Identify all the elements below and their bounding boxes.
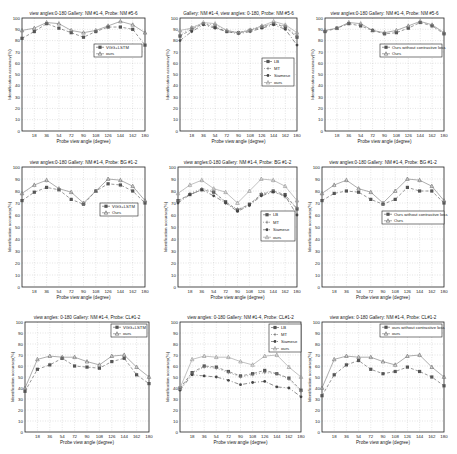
x-tick-label: 144 [117, 133, 125, 138]
square-marker-icon [20, 199, 23, 202]
x-tick-label: 36 [344, 289, 349, 294]
x-tick-label: 54 [358, 133, 363, 138]
y-tick-label: 10 [315, 273, 320, 278]
circle-marker-icon [236, 210, 239, 213]
y-tick-label: 50 [171, 225, 176, 230]
x-axis-label: Probe view angle (degree) [214, 440, 268, 445]
square-marker-icon [273, 326, 276, 329]
circle-marker-icon [296, 44, 299, 47]
y-tick-label: 70 [15, 201, 20, 206]
x-tick-label: 162 [281, 289, 289, 294]
square-marker-icon [442, 384, 445, 387]
circle-marker-icon [288, 387, 291, 390]
x-tick-label: 54 [213, 133, 218, 138]
x-tick-label: 54 [356, 434, 361, 439]
circle-marker-icon [267, 74, 270, 77]
y-tick-label: 70 [171, 201, 176, 206]
y-tick-label: 100 [13, 16, 21, 21]
square-marker-icon [104, 205, 107, 208]
x-tick-label: 144 [273, 434, 281, 439]
y-tick-label: 90 [171, 177, 176, 182]
circle-marker-icon [190, 30, 193, 33]
y-tick-label: 20 [15, 261, 20, 266]
x-axis-label: Probe view angle (degree) [60, 440, 114, 445]
y-tick-label: 90 [318, 27, 323, 32]
square-marker-icon [135, 373, 138, 376]
circle-marker-icon [284, 28, 287, 31]
y-tick-label: 0 [174, 285, 177, 290]
circle-marker-icon [227, 379, 230, 382]
circle-marker-icon [284, 194, 287, 197]
circle-marker-icon [177, 202, 180, 205]
x-tick-label: 72 [69, 289, 74, 294]
y-tick-label: 30 [173, 397, 178, 402]
square-marker-icon [110, 360, 113, 363]
x-tick-label: 144 [270, 133, 278, 138]
y-axis-label: Identification accuracy(%) [7, 49, 12, 100]
y-tick-label: 10 [173, 117, 178, 122]
y-tick-label: 80 [318, 38, 323, 43]
square-marker-icon [357, 191, 360, 194]
y-tick-label: 20 [315, 408, 320, 413]
x-tick-label: 180 [440, 434, 448, 439]
x-axis-label: Probe view angle (degree) [358, 139, 412, 144]
y-axis-label: Identification accuracy(%) [165, 351, 170, 402]
square-marker-icon [265, 213, 268, 216]
chart-panel: 0102030405060708090100183654729010812614… [307, 315, 448, 445]
y-tick-label: 0 [176, 430, 179, 435]
legend: ours without contrastive lossours [380, 324, 445, 337]
y-tick-label: 100 [313, 165, 321, 170]
legend-label: Ours [112, 210, 121, 215]
legend-label: ours [392, 331, 400, 336]
x-tick-label: 36 [201, 133, 206, 138]
legend-label: ours [281, 346, 289, 351]
x-tick-label: 180 [297, 434, 305, 439]
x-axis-label: Probe view angle (degree) [356, 440, 410, 445]
square-marker-icon [98, 367, 101, 370]
y-tick-label: 50 [15, 72, 20, 77]
x-tick-label: 90 [238, 434, 243, 439]
legend-label: VGG+LSTM [123, 325, 146, 330]
square-marker-icon [107, 182, 110, 185]
y-tick-label: 60 [171, 213, 176, 218]
x-tick-label: 108 [92, 289, 100, 294]
x-tick-label: 54 [356, 289, 361, 294]
square-marker-icon [345, 189, 348, 192]
square-marker-icon [406, 366, 409, 369]
circle-marker-icon [215, 376, 218, 379]
legend-label: ours [273, 235, 281, 240]
circle-marker-icon [179, 39, 182, 42]
y-axis-label: Identification accuracy(%) [307, 201, 312, 252]
x-tick-label: 126 [108, 434, 116, 439]
x-tick-label: 18 [190, 434, 195, 439]
x-tick-label: 18 [187, 289, 192, 294]
y-tick-label: 70 [318, 50, 323, 55]
chart-title: Gallery: NM #1-4, view angles: 0-180, Pr… [183, 11, 294, 16]
legend-label: Ours without contrastive loss [394, 212, 448, 217]
y-axis-label: Identification accuracy(%) [10, 351, 15, 402]
square-marker-icon [430, 189, 433, 192]
x-tick-label: 72 [224, 133, 229, 138]
x-tick-label: 72 [226, 434, 231, 439]
x-tick-label: 72 [72, 434, 77, 439]
y-tick-label: 70 [18, 353, 23, 358]
circle-marker-icon [260, 194, 263, 197]
y-tick-label: 20 [315, 261, 320, 266]
x-axis-label: Probe view angle (degree) [211, 295, 265, 300]
x-tick-label: 18 [32, 133, 37, 138]
y-tick-label: 10 [18, 419, 23, 424]
y-tick-label: 40 [315, 386, 320, 391]
y-tick-label: 100 [171, 320, 179, 325]
chart-title: view angles:0-180 Gallery: NM #1-4, Prob… [30, 160, 138, 165]
y-tick-label: 10 [318, 117, 323, 122]
x-tick-label: 90 [236, 133, 241, 138]
square-marker-icon [418, 189, 421, 192]
x-tick-label: 36 [44, 289, 49, 294]
x-tick-label: 162 [285, 434, 293, 439]
y-axis-label: Identification accuracy(%) [7, 201, 12, 252]
circle-marker-icon [272, 191, 275, 194]
y-tick-label: 100 [16, 320, 24, 325]
y-tick-label: 90 [315, 177, 320, 182]
square-marker-icon [384, 326, 387, 329]
y-tick-label: 0 [318, 430, 321, 435]
